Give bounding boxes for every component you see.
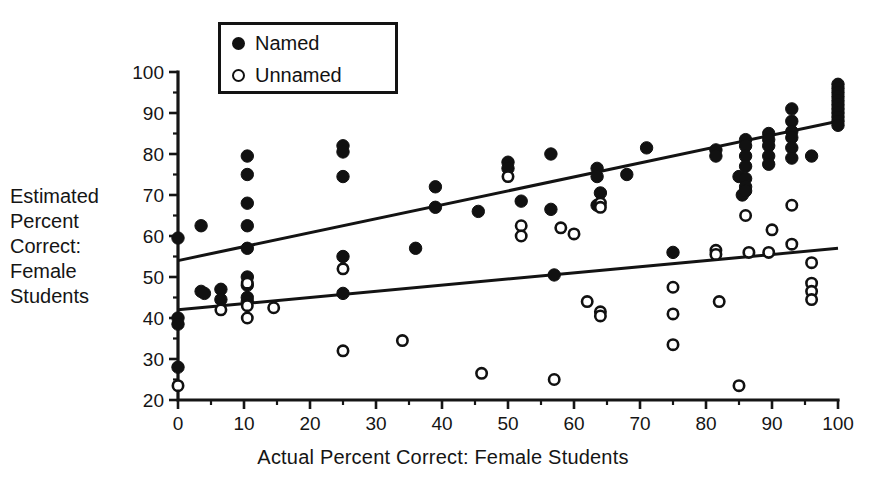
data-point-named bbox=[739, 185, 751, 197]
data-point-unnamed bbox=[503, 171, 513, 181]
x-tick-label-90: 90 bbox=[761, 413, 782, 434]
data-point-named bbox=[739, 160, 751, 172]
y-axis-title-line-1: Estimated bbox=[10, 184, 140, 209]
data-point-unnamed bbox=[764, 247, 774, 257]
data-point-named bbox=[198, 287, 210, 299]
data-point-named bbox=[621, 168, 633, 180]
data-point-unnamed bbox=[338, 264, 348, 274]
data-point-unnamed bbox=[734, 380, 744, 390]
data-point-unnamed bbox=[806, 294, 816, 304]
data-point-named bbox=[429, 181, 441, 193]
data-point-unnamed bbox=[668, 309, 678, 319]
data-point-named bbox=[545, 203, 557, 215]
open-circle-icon bbox=[221, 69, 255, 82]
y-axis-title: Estimated Percent Correct: Female Studen… bbox=[10, 184, 140, 309]
y-tick-label-90: 90 bbox=[143, 103, 164, 124]
y-tick-label-80: 80 bbox=[143, 144, 164, 165]
data-point-unnamed bbox=[595, 202, 605, 212]
data-point-unnamed bbox=[269, 303, 279, 313]
data-point-unnamed bbox=[242, 278, 252, 288]
data-point-unnamed bbox=[516, 231, 526, 241]
data-point-named bbox=[241, 150, 253, 162]
data-point-named bbox=[786, 103, 798, 115]
data-point-named bbox=[409, 242, 421, 254]
x-tick-label-10: 10 bbox=[233, 413, 254, 434]
data-point-named bbox=[472, 205, 484, 217]
y-tick-label-40: 40 bbox=[143, 308, 164, 329]
data-point-named bbox=[241, 242, 253, 254]
y-tick-label-100: 100 bbox=[132, 62, 164, 83]
plot-axes bbox=[178, 72, 838, 400]
data-point-unnamed bbox=[714, 296, 724, 306]
data-point-named bbox=[172, 361, 184, 373]
data-point-unnamed bbox=[787, 200, 797, 210]
data-point-unnamed bbox=[476, 368, 486, 378]
data-point-named bbox=[805, 150, 817, 162]
legend-label-unnamed: Unnamed bbox=[255, 64, 342, 87]
data-point-named bbox=[337, 287, 349, 299]
data-point-unnamed bbox=[549, 374, 559, 384]
data-point-unnamed bbox=[668, 339, 678, 349]
data-point-unnamed bbox=[242, 301, 252, 311]
data-point-named bbox=[591, 170, 603, 182]
scatter-plot-figure: 2030405060708090100010203040506070809010… bbox=[0, 0, 886, 484]
y-tick-label-50: 50 bbox=[143, 267, 164, 288]
legend-item-unnamed: Unnamed bbox=[221, 59, 395, 92]
data-point-unnamed bbox=[173, 380, 183, 390]
data-point-unnamed bbox=[582, 296, 592, 306]
legend-item-named: Named bbox=[221, 27, 395, 60]
data-point-unnamed bbox=[569, 229, 579, 239]
data-point-named bbox=[429, 201, 441, 213]
data-point-unnamed bbox=[767, 225, 777, 235]
x-tick-label-20: 20 bbox=[299, 413, 320, 434]
data-point-named bbox=[172, 318, 184, 330]
data-point-unnamed bbox=[744, 247, 754, 257]
y-axis-title-line-4: Female bbox=[10, 259, 140, 284]
data-point-unnamed bbox=[740, 210, 750, 220]
x-tick-label-40: 40 bbox=[431, 413, 452, 434]
y-tick-label-20: 20 bbox=[143, 390, 164, 411]
data-point-named bbox=[241, 220, 253, 232]
data-point-unnamed bbox=[216, 305, 226, 315]
y-axis-title-line-3: Correct: bbox=[10, 234, 140, 259]
data-point-named bbox=[786, 152, 798, 164]
data-point-unnamed bbox=[595, 311, 605, 321]
legend-label-named: Named bbox=[255, 32, 319, 55]
y-tick-label-70: 70 bbox=[143, 185, 164, 206]
x-axis-title: Actual Percent Correct: Female Students bbox=[0, 446, 886, 469]
data-point-unnamed bbox=[397, 335, 407, 345]
data-point-unnamed bbox=[806, 257, 816, 267]
data-point-unnamed bbox=[516, 221, 526, 231]
chart-legend: Named Unnamed bbox=[218, 22, 398, 94]
data-point-named bbox=[337, 146, 349, 158]
y-tick-label-30: 30 bbox=[143, 349, 164, 370]
data-point-named bbox=[640, 142, 652, 154]
x-tick-label-0: 0 bbox=[173, 413, 184, 434]
x-tick-label-60: 60 bbox=[563, 413, 584, 434]
data-point-named bbox=[545, 148, 557, 160]
data-point-named bbox=[337, 250, 349, 262]
x-tick-label-80: 80 bbox=[695, 413, 716, 434]
data-point-named bbox=[548, 269, 560, 281]
data-point-named bbox=[667, 246, 679, 258]
series-named bbox=[172, 78, 844, 373]
x-tick-label-100: 100 bbox=[822, 413, 854, 434]
y-axis-title-line-5: Students bbox=[10, 284, 140, 309]
data-point-named bbox=[337, 170, 349, 182]
y-tick-label-60: 60 bbox=[143, 226, 164, 247]
x-tick-label-70: 70 bbox=[629, 413, 650, 434]
data-point-unnamed bbox=[787, 239, 797, 249]
filled-circle-icon bbox=[221, 37, 255, 50]
y-axis-title-line-2: Percent bbox=[10, 209, 140, 234]
data-point-named bbox=[832, 119, 844, 131]
data-point-named bbox=[515, 195, 527, 207]
data-point-unnamed bbox=[711, 249, 721, 259]
data-point-named bbox=[763, 158, 775, 170]
data-point-named bbox=[172, 232, 184, 244]
regression-line-unnamed bbox=[178, 248, 838, 309]
x-tick-label-30: 30 bbox=[365, 413, 386, 434]
data-point-named bbox=[241, 168, 253, 180]
data-point-unnamed bbox=[556, 223, 566, 233]
x-tick-label-50: 50 bbox=[497, 413, 518, 434]
data-point-named bbox=[241, 197, 253, 209]
